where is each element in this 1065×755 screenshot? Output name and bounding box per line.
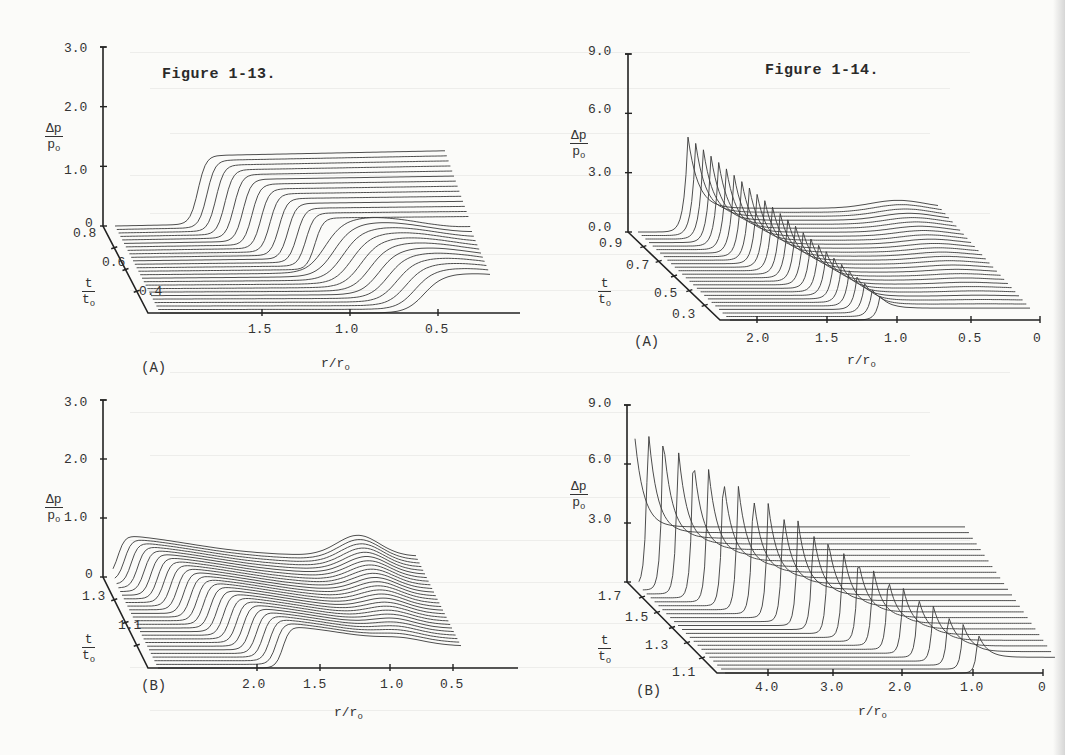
t-tick-label: 1.7	[598, 589, 621, 604]
chart-fig-1-14-b: 9.0 6.0 3.0 1.7 1.5 1.3 1.1 4.0 3.0 2.0 …	[0, 0, 1065, 755]
r-axis-label: r/ro	[858, 704, 887, 721]
t-tick-label: 1.1	[672, 665, 695, 680]
axis-lines	[627, 405, 1043, 673]
z-tick-label: 9.0	[588, 396, 611, 411]
r-tick-label: 4.0	[755, 680, 778, 695]
z-axis-label: Δppo	[570, 479, 588, 515]
r-tick-label: 2.0	[888, 680, 911, 695]
waterfall-plot	[0, 0, 1065, 755]
page-edge-shadow	[1053, 0, 1065, 755]
t-tick-label: 1.5	[625, 610, 648, 625]
z-tick-label: 3.0	[588, 512, 611, 527]
trace-lines	[635, 437, 1055, 674]
scanned-page: Figure 1-13. Figure 1-14. 3.0 2.0 1.0 0 …	[0, 0, 1065, 755]
panel-label: (B)	[636, 683, 661, 699]
r-tick-label: 1.0	[960, 680, 983, 695]
t-tick-label: 1.3	[645, 638, 668, 653]
r-tick-label: 3.0	[820, 680, 843, 695]
r-tick-label: 0	[1038, 680, 1046, 695]
z-tick-label: 6.0	[588, 452, 611, 467]
t-axis-label: tto	[598, 633, 611, 669]
